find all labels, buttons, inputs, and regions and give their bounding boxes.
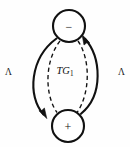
node-plus-sign: +	[65, 120, 72, 134]
label-center-text: TG	[56, 65, 69, 76]
label-center-subscript: 1	[70, 70, 74, 78]
figure-container: − + Λ Λ TG1	[0, 0, 130, 147]
label-center-group: TG1	[0, 66, 130, 78]
node-minus-sign: −	[66, 20, 73, 34]
